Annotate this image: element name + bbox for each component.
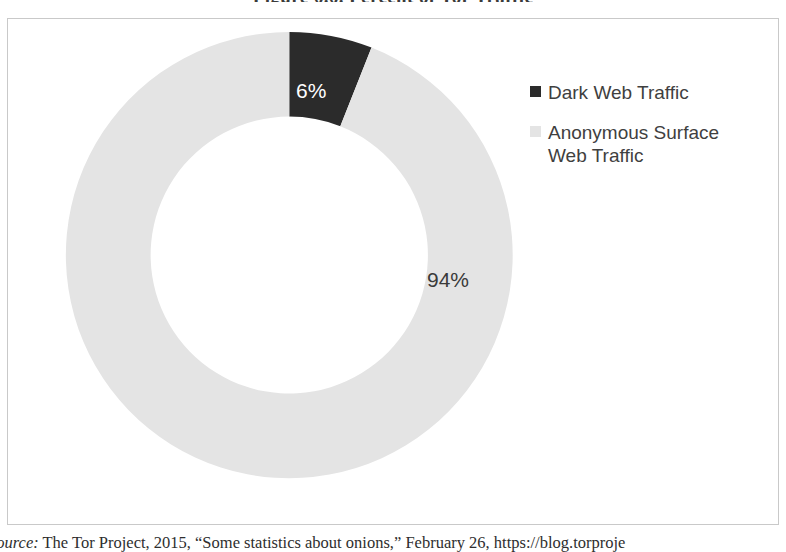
donut-slices (66, 32, 513, 478)
legend-item-anonymous-surface-web-traffic[interactable]: Anonymous Surface Web Traffic (530, 121, 770, 167)
legend-item-dark-web-traffic[interactable]: Dark Web Traffic (530, 81, 770, 104)
figure-source-note: Source: The Tor Project, 2015, “Some sta… (0, 533, 786, 552)
source-citation: The Tor Project, 2015, “Some statistics … (43, 533, 626, 552)
square-marker-icon (530, 86, 541, 97)
slice-label-dark-web-traffic: 6% (296, 79, 326, 103)
source-prefix: Source: (0, 533, 39, 552)
figure-title: Figure 6.6. Percent of Tor Traffic (0, 0, 786, 2)
legend-label: Dark Web Traffic (548, 81, 689, 104)
donut-slice[interactable] (66, 32, 513, 478)
slice-label-anonymous-surface-web-traffic: 94% (427, 268, 469, 292)
square-marker-icon (530, 126, 541, 137)
legend-label: Anonymous Surface Web Traffic (548, 121, 753, 167)
chart-frame: 6% 94% Dark Web Traffic Anonymous Surfac… (7, 18, 779, 525)
chart-legend: Dark Web Traffic Anonymous Surface Web T… (530, 81, 770, 184)
